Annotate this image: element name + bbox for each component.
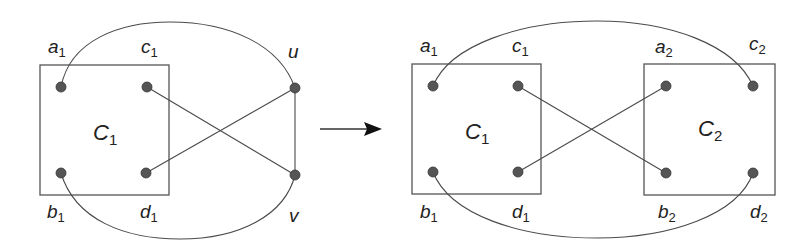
edge-b1-d2 — [433, 172, 753, 238]
label-a2: a2 — [655, 36, 673, 60]
label-b1: b1 — [47, 201, 65, 225]
label-d2: d2 — [750, 201, 768, 225]
node-d1 — [513, 167, 523, 177]
graph-transformation-diagram: a1 c1 b1 d1 u v C1 a1 c1 b1 d1 a2 — [0, 0, 811, 248]
node-d2 — [748, 168, 758, 178]
label-d1: d1 — [140, 201, 158, 225]
node-c2 — [748, 81, 758, 91]
label-c1: c1 — [141, 36, 158, 60]
label-c2: c2 — [749, 33, 766, 57]
edge-b1-v — [61, 173, 295, 239]
label-u: u — [288, 41, 299, 62]
label-a1: a1 — [48, 36, 66, 60]
node-a1 — [428, 81, 438, 91]
node-b2 — [661, 168, 671, 178]
label-component-c1-right: C1 — [465, 119, 489, 147]
transform-arrow — [320, 122, 382, 136]
label-v: v — [289, 205, 300, 226]
label-component-c1-left: C1 — [93, 120, 117, 148]
node-b1 — [56, 168, 66, 178]
label-a1: a1 — [420, 35, 438, 59]
node-u — [290, 83, 300, 93]
node-c1 — [142, 82, 152, 92]
label-component-c2-right: C2 — [698, 116, 722, 144]
node-a2 — [661, 81, 671, 91]
label-c1: c1 — [512, 35, 529, 59]
edge-a1-c2 — [433, 21, 753, 86]
right-graph: a1 c1 b1 d1 a2 c2 b2 d2 C1 C2 — [412, 21, 775, 238]
left-graph: a1 c1 b1 d1 u v C1 — [40, 22, 300, 239]
label-b1: b1 — [420, 201, 438, 225]
node-d1 — [141, 168, 151, 178]
node-b1 — [428, 167, 438, 177]
label-d1: d1 — [512, 201, 530, 225]
node-v — [290, 170, 300, 180]
edge-a1-u — [61, 22, 295, 88]
node-a1 — [56, 82, 66, 92]
label-b2: b2 — [658, 201, 676, 225]
node-c1 — [513, 81, 523, 91]
